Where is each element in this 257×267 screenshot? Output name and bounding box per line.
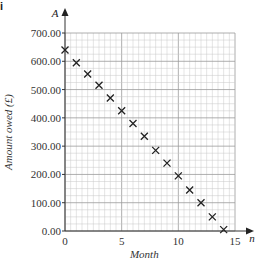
x-tick-label: 15 [230,235,242,247]
y-axis-label: Amount owed (£) [2,94,15,171]
y-tick-label: 300.00 [31,140,62,152]
y-axis-arrow-icon [62,8,69,16]
x-tick-label: 0 [62,235,68,247]
y-tick-label: 0.00 [42,225,62,237]
y-tick-label: 600.00 [31,55,62,67]
x-tick-label: 10 [173,235,185,247]
scatter-chart: An0.00100.00200.00300.00400.00500.00600.… [0,0,257,267]
y-axis-symbol: A [51,7,59,19]
y-tick-label: 400.00 [31,112,62,124]
y-tick-label: 200.00 [31,168,62,180]
x-axis-label: Month [129,248,159,260]
x-axis-symbol: n [249,232,255,244]
x-tick-label: 5 [119,235,125,247]
y-tick-label: 500.00 [31,84,62,96]
y-tick-label: 700.00 [31,27,62,39]
y-tick-label: 100.00 [31,197,62,209]
